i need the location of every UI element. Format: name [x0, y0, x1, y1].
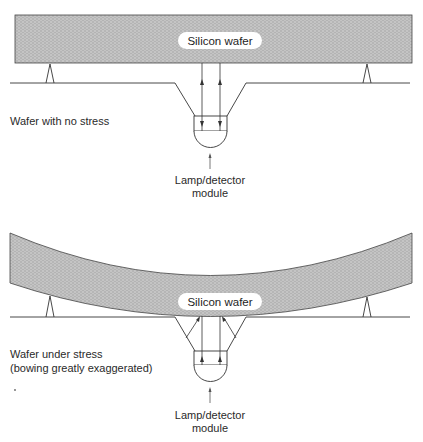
right-support-icon — [363, 297, 371, 317]
wafer-label: Silicon wafer — [187, 296, 252, 308]
lamp-detector-module — [194, 351, 227, 382]
caption-under-stress-line2: (bowing greatly exaggerated) — [10, 362, 152, 374]
wafer-label-pill: Silicon wafer — [178, 293, 262, 310]
module-label-line1: Lamp/detector — [175, 174, 246, 186]
panel-no-stress: Silicon wafer Lamp/detector module Wafer… — [10, 15, 412, 199]
wafer-label-pill: Silicon wafer — [178, 32, 262, 49]
wafer-label: Silicon wafer — [187, 35, 252, 47]
base-plate — [10, 83, 410, 116]
deflected-beam-right — [224, 318, 236, 338]
module-label-line1: Lamp/detector — [175, 409, 246, 421]
caption-under-stress-line1: Wafer under stress — [10, 348, 103, 360]
left-support-icon — [46, 296, 54, 317]
module-label-line2: module — [192, 187, 228, 199]
left-support-icon — [46, 64, 54, 83]
speck — [14, 389, 16, 391]
lamp-detector-module — [194, 116, 227, 148]
right-support-icon — [363, 64, 371, 83]
arrow-up-icon — [200, 79, 204, 85]
module-label-line2: module — [192, 422, 228, 434]
wafer-stress-diagram: Silicon wafer Lamp/detector module Wafer… — [0, 0, 423, 442]
base-plate — [10, 317, 410, 351]
arrow-up-icon — [218, 79, 222, 85]
panel-under-stress: Silicon wafer Lamp/detector module Wafer… — [10, 233, 412, 434]
deflected-beam-left — [186, 318, 199, 338]
caption-no-stress: Wafer with no stress — [10, 115, 110, 127]
